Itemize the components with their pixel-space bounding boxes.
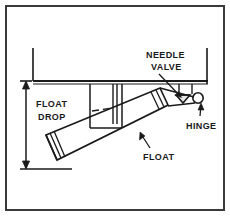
hinge-circle (193, 93, 203, 103)
canvas-background (0, 0, 230, 216)
needle-valve-label-line2: VALVE (151, 62, 182, 72)
float-drop-diagram: NEEDLE VALVE HINGE FLOAT FLOAT DROP (0, 0, 230, 216)
hinge-pin (193, 93, 203, 103)
float-label: FLOAT (143, 152, 174, 162)
figure-container: NEEDLE VALVE HINGE FLOAT FLOAT DROP (0, 0, 230, 216)
hinge-label: HINGE (186, 121, 217, 131)
needle-valve-label-line1: NEEDLE (146, 50, 185, 60)
float-drop-label-line1: FLOAT (36, 99, 67, 109)
float-drop-label-line2: DROP (38, 112, 66, 122)
